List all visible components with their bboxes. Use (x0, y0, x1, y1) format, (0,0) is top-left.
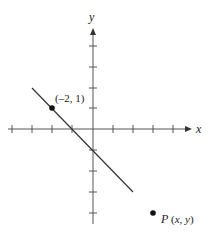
y-axis-arrow-icon (90, 28, 96, 35)
point-p-name: P (160, 212, 169, 226)
x-axis-label: x (195, 122, 202, 136)
x-axis: x (8, 122, 202, 136)
given-point-dot (49, 105, 55, 111)
point-p-dot (150, 210, 156, 216)
given-point-label: (–2, 1) (55, 92, 85, 105)
coordinate-plane-diagram: x y (–2, 1) P (x, y) (0, 0, 210, 242)
point-p-coords: (x, y) (171, 213, 194, 226)
x-axis-arrow-icon (185, 126, 192, 132)
y-axis: y (88, 10, 97, 224)
y-axis-label: y (88, 10, 95, 24)
